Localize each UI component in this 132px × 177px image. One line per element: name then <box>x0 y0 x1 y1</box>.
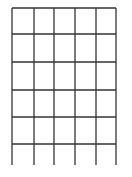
grid-diagram <box>0 0 132 177</box>
